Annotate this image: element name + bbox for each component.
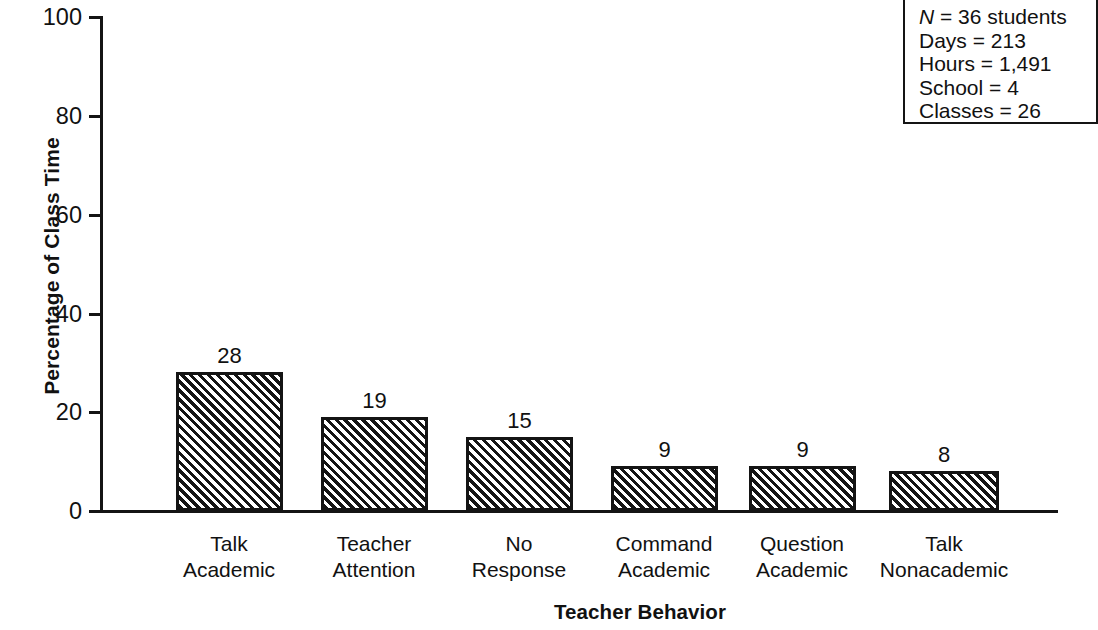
bar-2: [321, 417, 428, 511]
info-line-classes: Classes = 26: [919, 99, 1096, 123]
y-tick-20: [89, 411, 101, 414]
bar-value-label-4: 9: [625, 439, 705, 461]
info-line-hours: Hours = 1,491: [919, 52, 1096, 76]
bar-value-label-1: 28: [190, 345, 270, 367]
bar-1: [176, 372, 283, 511]
info-n-symbol: N: [919, 5, 934, 28]
bar-value-label-2: 19: [335, 390, 415, 412]
y-tick-label-100: 100: [22, 5, 82, 29]
bar-4: [611, 466, 718, 511]
y-axis-title: Percentage of Class Time: [40, 101, 64, 431]
bar-5: [749, 466, 856, 511]
y-axis-line: [100, 16, 103, 513]
info-line-days: Days = 213: [919, 29, 1096, 53]
y-tick-60: [89, 214, 101, 217]
category-label-6: TalkNonacademic: [859, 531, 1029, 582]
bar-value-label-5: 9: [763, 439, 843, 461]
info-n-value: = 36 students: [934, 5, 1067, 28]
bar-value-label-3: 15: [480, 410, 560, 432]
y-tick-40: [89, 313, 101, 316]
bar-3: [466, 437, 573, 511]
bar-value-label-6: 8: [904, 444, 984, 466]
y-tick-80: [89, 115, 101, 118]
info-line-school: School = 4: [919, 76, 1096, 100]
y-tick-label-0: 0: [22, 499, 82, 523]
statistics-info-box: N = 36 students Days = 213 Hours = 1,491…: [903, 0, 1098, 124]
bar-6: [889, 471, 999, 511]
category-label-line2: Nonacademic: [859, 557, 1029, 583]
x-axis-title: Teacher Behavior: [440, 600, 840, 624]
info-line-n: N = 36 students: [919, 5, 1096, 29]
category-label-line1: Talk: [859, 531, 1029, 557]
y-tick-100: [89, 16, 101, 19]
